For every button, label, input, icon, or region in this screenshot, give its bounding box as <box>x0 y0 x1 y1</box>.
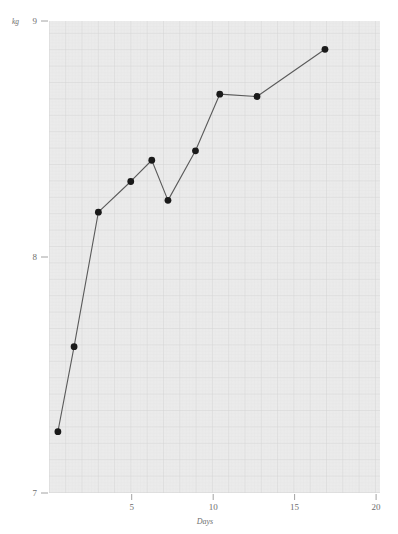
y-tick-label-8: 8 <box>33 252 38 262</box>
data-point <box>165 197 172 204</box>
data-point <box>71 343 78 350</box>
data-point <box>254 93 261 100</box>
line-chart-canvas: 9 8 7 kg 5 10 15 20 Days <box>0 0 398 534</box>
y-axis-ticks <box>41 21 48 493</box>
x-tick-label-5: 5 <box>129 502 134 512</box>
x-axis-ticks <box>132 494 376 500</box>
chart-figure: 9 8 7 kg 5 10 15 20 Days <box>0 0 398 534</box>
x-tick-label-20: 20 <box>372 502 382 512</box>
x-tick-label-15: 15 <box>290 502 300 512</box>
y-axis-unit-label: kg <box>12 17 19 26</box>
x-axis-tick-labels: 5 10 15 20 <box>129 502 381 512</box>
data-point <box>216 91 223 98</box>
y-tick-label-7: 7 <box>33 488 38 498</box>
plot-area-background <box>49 21 380 493</box>
data-point <box>192 147 199 154</box>
x-axis-title: Days <box>196 517 213 526</box>
data-point <box>55 428 62 435</box>
data-point <box>127 178 134 185</box>
data-point <box>322 46 329 53</box>
data-point <box>95 209 102 216</box>
data-point <box>148 157 155 164</box>
x-tick-label-10: 10 <box>209 502 219 512</box>
y-axis-tick-labels: 9 8 7 <box>33 16 38 498</box>
y-tick-label-9: 9 <box>33 16 38 26</box>
